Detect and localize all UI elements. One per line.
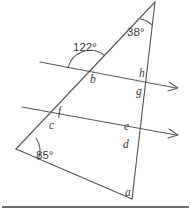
angle-label-e: e [124, 120, 129, 132]
angle-label-d: d [123, 138, 129, 150]
angle-label-h: h [139, 67, 145, 79]
geometry-diagram: 122° 38° 85° b h g f c e d a [0, 0, 191, 217]
angle-label-b: b [90, 73, 96, 85]
angle-arc-122 [68, 50, 104, 68]
angle-arc-38 [140, 19, 152, 25]
angle-label-f: f [58, 105, 63, 118]
transversal-upper [40, 62, 176, 88]
angle-label-85: 85° [36, 149, 53, 161]
geometry-figure-container: 122° 38° 85° b h g f c e d a [0, 0, 191, 217]
angle-label-g: g [136, 85, 142, 98]
angle-label-c: c [49, 119, 54, 131]
transversal-lower [22, 107, 176, 135]
angle-label-38: 38° [127, 26, 144, 38]
angle-label-a: a [125, 186, 131, 198]
angle-label-122: 122° [73, 41, 97, 53]
triangle-base [16, 149, 132, 199]
